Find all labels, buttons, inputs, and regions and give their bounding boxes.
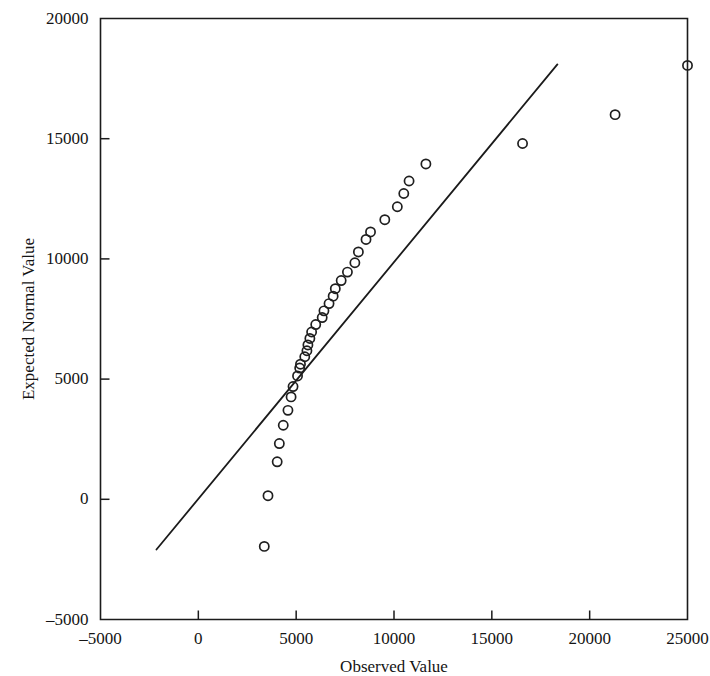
y-tick-label: –5000 bbox=[46, 610, 89, 630]
x-axis-title: Observed Value bbox=[340, 657, 448, 676]
x-tick-label: 25000 bbox=[666, 629, 709, 649]
y-tick-label: 15000 bbox=[46, 129, 89, 149]
plot-frame bbox=[101, 19, 688, 620]
plot-canvas bbox=[0, 0, 710, 676]
data-point-markers bbox=[260, 61, 692, 551]
x-tick-label: –5000 bbox=[79, 629, 122, 649]
y-tick-label: 0 bbox=[80, 489, 89, 509]
x-tick-label: 5000 bbox=[279, 629, 313, 649]
x-tick-label: 20000 bbox=[568, 629, 611, 649]
qq-plot-figure: –500005000100001500020000 –5000050001000… bbox=[0, 0, 710, 676]
x-tick-label: 0 bbox=[194, 629, 203, 649]
y-axis-title: Expected Normal Value bbox=[19, 238, 39, 400]
x-tick-label: 15000 bbox=[471, 629, 514, 649]
tick-marks bbox=[101, 139, 590, 620]
y-tick-label: 20000 bbox=[46, 9, 89, 29]
y-tick-label: 10000 bbox=[46, 249, 89, 269]
y-tick-label: 5000 bbox=[55, 369, 89, 389]
reference-line bbox=[156, 64, 557, 549]
x-tick-label: 10000 bbox=[373, 629, 416, 649]
